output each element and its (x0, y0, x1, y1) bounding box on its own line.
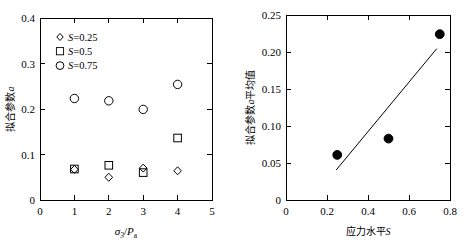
left-x-axis-title: σ3/Pa (115, 225, 138, 240)
left-ytick-3: 0.3 (21, 58, 35, 70)
legend-item-s075[interactable]: S=0.75 (56, 60, 97, 71)
data-point (71, 165, 79, 173)
data-point (435, 30, 444, 39)
series-s05-points (71, 134, 182, 176)
series-mean-points (333, 30, 444, 160)
svg-text:σ3/Pa: σ3/Pa (115, 225, 138, 240)
chart-legend: S=0.25 S=0.5 S=0.75 (56, 32, 97, 72)
legend-label-s075: S=0.75 (68, 60, 98, 71)
legend-label-s025: S=0.25 (68, 32, 98, 43)
chart-panel-left: 0 0.1 0.2 0.3 0.4 0 1 2 3 4 5 σ3/Pa (0, 0, 238, 244)
data-point (71, 165, 79, 173)
legend-label-s05: S=0.5 (68, 46, 92, 57)
left-y-ticks (40, 18, 212, 200)
right-axes-frame (286, 15, 450, 200)
left-y-axis-title: 拟合参数a (4, 87, 16, 132)
right-xtick-3: 0.6 (402, 205, 416, 217)
right-xtitle-cjk: 应力水平 (346, 225, 386, 237)
right-xtick-0: 0 (283, 205, 289, 217)
left-axes-frame (40, 18, 212, 200)
data-point (174, 167, 182, 175)
right-chart-svg: 0 0.05 0.10 0.15 0.20 0.25 0 0.2 0.4 0.6… (238, 0, 475, 244)
left-xtick-5: 5 (209, 205, 215, 217)
left-xtick-4: 4 (175, 205, 181, 217)
right-ytitle-cjk-post: 平均值 (244, 70, 256, 100)
left-xtick-1: 1 (72, 205, 78, 217)
right-xtick-2: 0.4 (361, 205, 375, 217)
data-point (105, 173, 113, 181)
right-x-ticks (286, 15, 450, 200)
right-x-ticklabels: 0 0.2 0.4 0.6 0.8 (283, 205, 457, 217)
right-y-ticks (286, 15, 450, 200)
data-point (70, 94, 78, 102)
right-xtitle-italic: S (386, 226, 391, 237)
left-xtick-2: 2 (106, 205, 112, 217)
right-y-ticklabels: 0 0.05 0.10 0.15 0.20 0.25 (262, 9, 282, 206)
right-xtick-4: 0.8 (443, 205, 457, 217)
left-chart-svg: 0 0.1 0.2 0.3 0.4 0 1 2 3 4 5 σ3/Pa (0, 0, 238, 244)
data-point (384, 134, 393, 143)
left-xtitle-p-sub: a (134, 231, 138, 240)
left-ytitle-cjk: 拟合参数 (4, 92, 16, 132)
chart-panel-right: 0 0.05 0.10 0.15 0.20 0.25 0 0.2 0.4 0.6… (238, 0, 475, 244)
trendline (336, 49, 437, 170)
right-ytick-5: 0.25 (262, 9, 282, 21)
series-s025-points (71, 164, 182, 181)
right-xtick-1: 0.2 (320, 205, 334, 217)
svg-text:拟合参数a平均值: 拟合参数a平均值 (244, 70, 256, 145)
data-point (139, 164, 147, 172)
right-ytitle-cjk-pre: 拟合参数 (244, 105, 256, 145)
left-y-ticklabels: 0 0.1 0.2 0.3 0.4 (21, 12, 35, 206)
right-y-axis-title: 拟合参数a平均值 (244, 70, 256, 145)
data-point (105, 97, 113, 105)
right-ytick-1: 0.05 (262, 157, 282, 169)
left-ytick-1: 0.1 (21, 149, 35, 161)
left-ytick-0: 0 (30, 194, 36, 206)
figure-root: 0 0.1 0.2 0.3 0.4 0 1 2 3 4 5 σ3/Pa (0, 0, 475, 244)
diamond-marker-icon (57, 34, 63, 41)
left-xtick-3: 3 (140, 205, 146, 217)
series-s075-points (70, 80, 182, 113)
legend-item-s05[interactable]: S=0.5 (56, 46, 92, 57)
left-x-ticks (40, 18, 212, 200)
legend-item-s025[interactable]: S=0.25 (57, 32, 98, 43)
left-x-ticklabels: 0 1 2 3 4 5 (37, 205, 215, 217)
data-point (173, 80, 181, 88)
right-ytick-4: 0.20 (262, 46, 282, 58)
square-marker-icon (56, 48, 63, 55)
left-ytick-4: 0.4 (21, 12, 35, 24)
svg-text:拟合参数a: 拟合参数a (4, 87, 16, 132)
left-ytitle-italic: a (5, 87, 16, 92)
circle-marker-icon (56, 62, 64, 70)
right-x-axis-title: 应力水平S (346, 225, 391, 237)
data-point (174, 134, 182, 142)
data-point (105, 162, 113, 170)
right-ytick-3: 0.15 (262, 83, 282, 95)
left-ytick-2: 0.2 (21, 103, 35, 115)
left-xtick-0: 0 (37, 205, 43, 217)
right-ytick-2: 0.10 (262, 120, 282, 132)
right-ytick-0: 0 (276, 194, 282, 206)
svg-text:应力水平S: 应力水平S (346, 225, 391, 237)
data-point (333, 151, 342, 160)
data-point (139, 105, 147, 113)
